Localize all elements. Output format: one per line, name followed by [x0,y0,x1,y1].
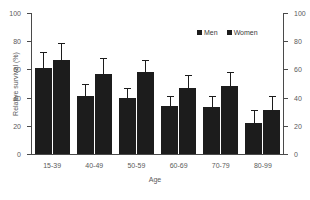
y-tick-label-left: 0 [17,151,21,158]
error-bar-cap-upper [82,84,89,85]
legend-swatch-icon [227,30,232,35]
y-tick-label-left: 20 [13,122,21,129]
chart-figure: Relative survival (%) 020406080100 02040… [0,0,310,200]
y-tick-label-right: 100 [294,10,306,17]
x-axis-line [31,154,284,155]
y-axis-left-line [31,13,32,155]
legend-entry: Men [197,29,218,36]
error-bar-cap-upper [269,96,276,97]
error-bar [254,110,255,134]
error-bar [212,96,213,117]
error-bar [103,58,104,90]
error-bar-cap-upper [124,88,131,89]
error-bar [61,43,62,75]
error-bar-cap-upper [167,96,174,97]
y-tick-left: 60 [27,69,31,70]
error-bar [230,72,231,99]
error-bar [145,60,146,87]
legend-entry: Women [227,29,258,36]
chart-legend: MenWomen [197,29,258,36]
y-tick-right: 80 [284,41,288,42]
y-tick-right: 20 [284,126,288,127]
error-bar [272,96,273,123]
y-tick-label-right: 80 [294,38,302,45]
x-tick-label: 60-69 [170,162,188,169]
error-bar-cap-upper [185,75,192,76]
error-bar-cap-upper [40,52,47,53]
legend-label: Men [204,29,218,36]
y-tick-left: 40 [27,98,31,99]
x-axis-title: Age [0,176,310,183]
y-tick-right: 60 [284,69,288,70]
x-tick-label: 50-59 [127,162,145,169]
error-bar [127,88,128,108]
y-tick-label-right: 60 [294,66,302,73]
error-bar-cap-upper [142,60,149,61]
y-tick-left: 0 [27,154,31,155]
error-bar [188,75,189,99]
legend-swatch-icon [197,30,202,35]
y-tick-label-right: 20 [294,122,302,129]
error-bar-cap-upper [100,58,107,59]
y-tick-right: 100 [284,13,288,14]
error-bar [170,96,171,114]
legend-label: Women [234,29,258,36]
x-tick-label: 40-49 [85,162,103,169]
y-tick-left: 80 [27,41,31,42]
y-tick-label-right: 40 [294,94,302,101]
y-axis-right-line [283,13,284,155]
error-bar-cap-upper [227,72,234,73]
x-tick-label: 70-79 [212,162,230,169]
error-bar-cap-upper [58,43,65,44]
y-tick-right: 40 [284,98,288,99]
y-tick-left: 100 [27,13,31,14]
error-bar-cap-upper [251,110,258,111]
y-tick-right: 0 [284,154,288,155]
y-axis-title: Relative survival (%) [12,52,19,116]
x-tick-label: 80-99 [254,162,272,169]
x-tick-label: 15-39 [43,162,61,169]
error-bar [85,84,86,109]
y-tick-label-left: 100 [9,10,21,17]
y-tick-label-right: 0 [294,151,298,158]
y-tick-label-left: 40 [13,94,21,101]
y-tick-label-left: 60 [13,66,21,73]
y-tick-label-left: 80 [13,38,21,45]
chart-title [0,0,310,1]
y-tick-left: 20 [27,126,31,127]
error-bar [43,52,44,84]
error-bar-cap-upper [209,96,216,97]
